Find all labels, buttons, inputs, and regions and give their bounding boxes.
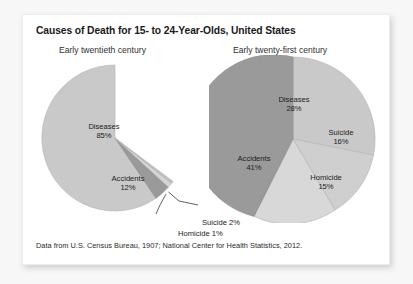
callout-label-suicide: Suicide 2%	[202, 218, 240, 227]
figure-canvas: Causes of Death for 15- to 24-Year-Olds,…	[0, 0, 413, 284]
page-title: Causes of Death for 15- to 24-Year-Olds,…	[36, 25, 296, 36]
pie-right-svg	[209, 55, 377, 223]
pie-slice-diseases-left	[42, 65, 156, 211]
figure-card: Causes of Death for 15- to 24-Year-Olds,…	[22, 14, 390, 265]
panel-heading-left: Early twentieth century	[59, 45, 146, 55]
pie-left-svg	[40, 63, 190, 213]
panel-heading-right: Early twenty-first century	[233, 45, 327, 55]
figure-source-note: Data from U.S. Census Bureau, 1907; Nati…	[36, 241, 302, 250]
callout-label-homicide: Homicide 1%	[178, 229, 223, 238]
pie-slice-diseases-right	[293, 57, 375, 155]
pie-chart-early-twenty-first-century: Diseases 28% Suicide 16% Homicide 15% Ac…	[209, 55, 377, 223]
pie-chart-early-twentieth-century: Diseases 85% Accidents 12%	[40, 63, 190, 213]
